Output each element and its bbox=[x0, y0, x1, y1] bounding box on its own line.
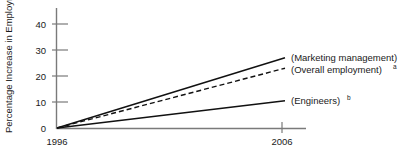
y-tick-label-40: 40 bbox=[35, 19, 46, 30]
series-line-engineers bbox=[57, 101, 285, 128]
x-tick-label-1996: 1996 bbox=[46, 136, 67, 147]
series-label-engineers: (Engineers) bbox=[291, 95, 340, 106]
y-tick-label-20: 20 bbox=[35, 71, 46, 82]
y-axis-title: Percentage Increase in Employment bbox=[3, 0, 14, 133]
y-tick-label-0: 0 bbox=[41, 123, 46, 134]
series-line-marketing-management bbox=[57, 58, 285, 128]
series-label-overall-employment-superscript: a bbox=[393, 63, 397, 70]
series-label-engineers-superscript: b bbox=[347, 94, 351, 101]
series-line-overall-employment bbox=[57, 68, 285, 128]
y-tick-label-30: 30 bbox=[35, 45, 46, 56]
x-tick-label-2006: 2006 bbox=[271, 136, 292, 147]
series-label-overall-employment: (Overall employment) bbox=[291, 64, 382, 75]
y-tick-label-10: 10 bbox=[35, 97, 46, 108]
chart-container: Percentage Increase in Employment 40 30 … bbox=[0, 0, 410, 158]
employment-growth-line-chart: Percentage Increase in Employment 40 30 … bbox=[0, 0, 410, 158]
series-label-marketing-management: (Marketing management) bbox=[291, 52, 397, 63]
